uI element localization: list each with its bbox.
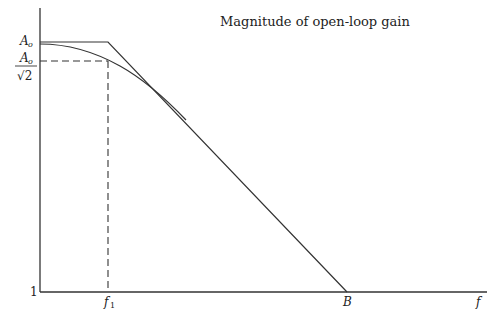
diagram-title: Magnitude of open-loop gain [220, 14, 411, 29]
label-b: B [342, 295, 352, 309]
svg-text:o: o [28, 40, 33, 49]
label-a-o: A o [19, 34, 33, 49]
svg-text:√2: √2 [17, 69, 32, 83]
response-curve [40, 44, 186, 120]
label-a-o-over-root2: A o √2 [15, 51, 37, 83]
svg-text:1: 1 [110, 301, 115, 310]
asymptote-line [40, 42, 347, 292]
svg-text:o: o [28, 57, 33, 66]
bode-magnitude-diagram: Magnitude of open-loop gain A o A o √2 1… [0, 0, 503, 318]
label-one: 1 [30, 285, 38, 299]
label-f1: f 1 [103, 295, 115, 310]
label-f-axis: f [475, 295, 483, 309]
